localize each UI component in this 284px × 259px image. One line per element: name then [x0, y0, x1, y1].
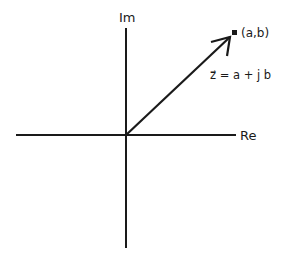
vector-formula: z⃗ = a + j b — [210, 68, 271, 82]
complex-plane-diagram: Im Re (a,b) z⃗ = a + j b — [0, 0, 284, 259]
imaginary-axis-label: Im — [119, 10, 136, 25]
vector-z — [126, 37, 230, 135]
point-marker — [232, 30, 237, 35]
point-label: (a,b) — [241, 26, 269, 40]
real-axis-label: Re — [240, 128, 256, 143]
